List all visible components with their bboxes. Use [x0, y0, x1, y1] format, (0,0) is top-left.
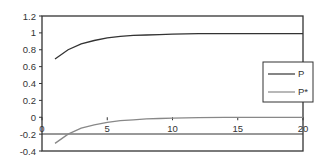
series-line — [55, 117, 303, 143]
x-axis-ticks: 05101520 — [39, 117, 308, 134]
y-tick-label: -0.2 — [20, 129, 36, 140]
y-tick-label: 0.2 — [23, 95, 36, 106]
y-tick-label: 1 — [31, 27, 36, 38]
y-tick-label: 0 — [31, 112, 36, 123]
legend: P P* — [263, 62, 313, 102]
legend-label-p: P — [298, 68, 304, 79]
x-tick-label: 15 — [232, 123, 243, 134]
x-tick-label: 5 — [105, 123, 110, 134]
x-tick-label: 10 — [167, 123, 178, 134]
line-chart: 1.210.80.60.40.20-0.2-0.4 05101520 P P* — [0, 0, 321, 162]
y-tick-label: 1.2 — [23, 11, 36, 22]
legend-label-p-star: P* — [298, 86, 308, 97]
y-tick-label: 0.4 — [23, 78, 36, 89]
y-axis-ticks: 1.210.80.60.40.20-0.2-0.4 — [20, 11, 42, 157]
series-line — [55, 34, 303, 59]
y-tick-label: 0.6 — [23, 61, 36, 72]
y-tick-label: 0.8 — [23, 44, 36, 55]
y-tick-label: -0.4 — [20, 146, 36, 157]
